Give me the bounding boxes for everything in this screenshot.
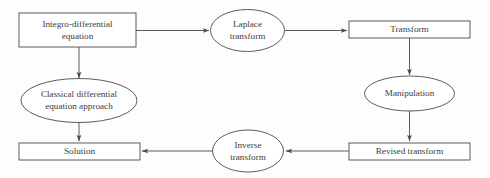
node-manipulation[interactable]: Manipulation xyxy=(365,76,455,111)
node-inverse-transform[interactable]: Inverse transform xyxy=(213,130,284,172)
node-label-line2: transform xyxy=(230,152,266,162)
node-label-line1: Transform xyxy=(390,24,428,34)
node-shape-rectangle xyxy=(19,13,136,47)
node-label-line1: Solution xyxy=(64,146,96,156)
node-solution[interactable]: Solution xyxy=(19,143,140,160)
node-revised-transform[interactable]: Revised transform xyxy=(349,143,470,160)
node-classical-differential-equation-approach[interactable]: Classical differential equation approach xyxy=(21,79,137,123)
node-label-line1: Integro-differential xyxy=(42,19,113,29)
node-label-line1: Laplace xyxy=(233,19,262,29)
node-laplace-transform[interactable]: Laplace transform xyxy=(211,10,285,52)
flowchart-canvas: Integro-differential equation Laplace tr… xyxy=(0,0,490,178)
node-integro-differential-equation[interactable]: Integro-differential equation xyxy=(19,13,136,47)
node-label-line2: transform xyxy=(230,31,266,41)
node-label-line1: Revised transform xyxy=(376,146,444,156)
node-label-line1: Classical differential xyxy=(41,89,118,99)
node-label-line2: equation approach xyxy=(45,101,113,111)
node-label-line1: Inverse xyxy=(234,140,261,150)
node-label-line1: Manipulation xyxy=(385,88,435,98)
node-label-line2: equation xyxy=(62,31,94,41)
node-transform[interactable]: Transform xyxy=(349,21,470,38)
